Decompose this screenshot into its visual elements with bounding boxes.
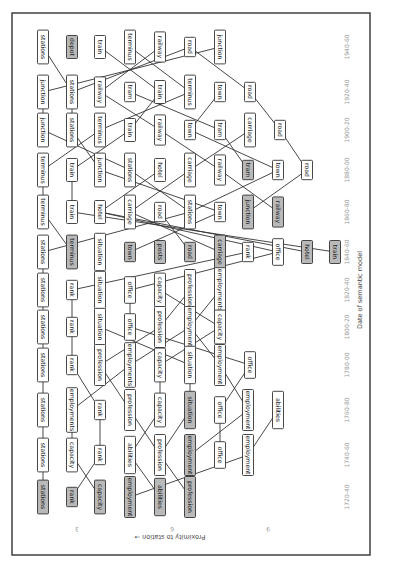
date-tick-label: 1940-60 xyxy=(343,34,350,59)
node-profession: profession xyxy=(95,345,106,386)
node-label: employments xyxy=(216,269,224,311)
node-office: office xyxy=(215,442,226,469)
node-label: train xyxy=(332,245,339,259)
node-label: road xyxy=(247,85,254,99)
node-label: situation xyxy=(97,314,104,341)
node-label: abilities xyxy=(127,443,134,467)
node-label: office xyxy=(217,402,224,419)
node-capacity: capacity xyxy=(155,273,166,307)
node-carriage: carriage xyxy=(245,113,256,147)
node-label: rank xyxy=(69,358,76,372)
node-rank: rank xyxy=(95,400,106,419)
node-road: road xyxy=(245,82,256,101)
node-road: road xyxy=(185,37,196,56)
node-label: capacity xyxy=(156,352,164,378)
node-tram: tram xyxy=(125,82,136,101)
node-employments: employments xyxy=(67,388,78,433)
node-label: junction xyxy=(39,79,47,105)
node-employment: employment xyxy=(125,477,136,518)
node-label: railway xyxy=(156,36,164,59)
node-label: profession xyxy=(186,274,194,306)
node-label: rank xyxy=(97,403,104,417)
node-rank: rank xyxy=(95,445,106,464)
node-label: rank xyxy=(245,245,252,259)
node-label: road xyxy=(187,40,194,54)
edge-line xyxy=(130,92,220,130)
node-label: office xyxy=(127,282,134,299)
node-train: train xyxy=(125,119,136,142)
node-stations: stations xyxy=(38,273,49,307)
edge-line xyxy=(100,92,190,130)
node-situation: situation xyxy=(185,346,196,383)
node-rank: rank xyxy=(67,317,78,336)
node-label: profession xyxy=(156,311,164,343)
node-label: train xyxy=(157,85,164,99)
node-label: town xyxy=(127,244,134,259)
node-label: employments xyxy=(68,389,76,431)
node-label: stations xyxy=(127,158,134,183)
node-abilities: abilities xyxy=(273,391,284,428)
date-tick-label: 1840-60 xyxy=(343,239,350,264)
node-label: road xyxy=(277,123,284,137)
node-label: stations xyxy=(40,240,47,265)
node-label: tram xyxy=(245,163,252,178)
node-label: stations xyxy=(187,200,194,225)
node-town: town xyxy=(215,202,226,221)
node-label: profession xyxy=(186,481,194,513)
date-axis-title: Date of semantic model xyxy=(356,251,364,329)
node-label: profession xyxy=(156,439,164,471)
node-situation: situation xyxy=(95,233,106,270)
node-label: rank xyxy=(97,448,104,462)
node-label: situation xyxy=(187,352,194,379)
node-label: stations xyxy=(40,35,47,60)
node-hotel: hotel xyxy=(155,159,166,182)
node-employments: employments xyxy=(125,343,136,388)
edge-line xyxy=(43,212,190,252)
node-label: railway xyxy=(274,201,282,224)
node-label: tram xyxy=(127,85,134,100)
date-tick-label: 1740-60 xyxy=(343,442,350,467)
node-label: employment xyxy=(216,345,224,385)
node-label: stations xyxy=(40,353,47,378)
node-abilities: abilities xyxy=(155,478,166,515)
node-rank: rank xyxy=(67,355,78,374)
node-stations: stations xyxy=(185,195,196,229)
node-label: capacity xyxy=(216,314,224,340)
node-hotel: hotel xyxy=(95,201,106,224)
node-label: junction xyxy=(96,157,104,183)
node-label: employment xyxy=(244,390,252,430)
node-stations: stations xyxy=(38,30,49,64)
node-capacity: capacity xyxy=(215,310,226,344)
node-label: town xyxy=(275,162,282,177)
node-stations: stations xyxy=(38,235,49,269)
date-tick-label: 1760-80 xyxy=(343,397,350,422)
node-label: junction xyxy=(216,34,224,60)
node-label: railway xyxy=(216,159,224,182)
node-profession: profession xyxy=(185,270,196,311)
node-town: town xyxy=(215,82,226,101)
node-railway: railway xyxy=(155,115,166,145)
node-stations: stations xyxy=(67,75,78,109)
node-profession: profession xyxy=(125,390,136,431)
node-railway: railway xyxy=(155,32,166,62)
node-label: town xyxy=(217,204,224,219)
node-railway: railway xyxy=(273,197,284,227)
node-employments: employments xyxy=(215,268,226,313)
node-office: office xyxy=(125,314,136,341)
node-road: road xyxy=(155,202,166,221)
edge-line xyxy=(190,170,278,212)
node-office: office xyxy=(245,352,256,379)
date-tick-label: 1720-40 xyxy=(343,484,350,509)
node-terminus: terminus xyxy=(185,75,196,109)
node-rank: rank xyxy=(67,280,78,299)
node-tram: tram xyxy=(215,120,226,139)
node-depot: depot xyxy=(67,36,78,59)
proximity-axis-title: Proximity to station → xyxy=(134,533,205,541)
node-label: capacity xyxy=(96,484,104,510)
node-carriage: carriage xyxy=(125,195,136,229)
node-label: office xyxy=(275,244,282,261)
node-label: terminus xyxy=(97,116,104,143)
node-employment: employment xyxy=(185,435,196,476)
node-train: train xyxy=(67,159,78,182)
date-tick-label: 1860-80 xyxy=(343,199,350,224)
